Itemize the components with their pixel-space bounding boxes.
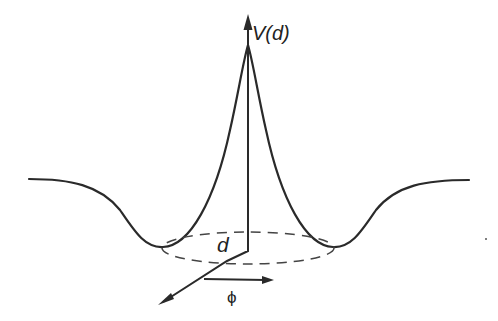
potential-label: V(d)	[252, 22, 290, 45]
phi-arrow	[204, 279, 266, 280]
radial-axis-arrow-icon	[158, 293, 174, 305]
phi-arrow-icon	[262, 276, 274, 284]
angle-label: ϕ	[227, 288, 237, 308]
potential-diagram	[0, 0, 498, 321]
radial-label: d	[217, 233, 229, 257]
speck	[485, 238, 487, 240]
